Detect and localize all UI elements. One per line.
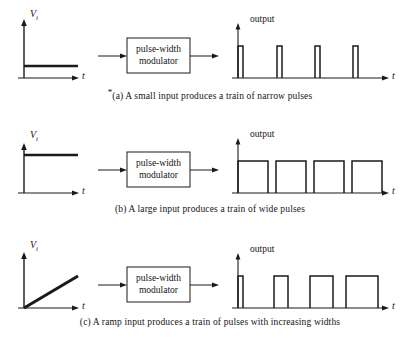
output-y-axis-arrow-b xyxy=(236,138,241,145)
output-label-c: output xyxy=(250,244,274,254)
output-y-axis-arrow-a xyxy=(236,23,241,30)
output-x-axis-arrow-b xyxy=(382,190,389,195)
output-x-axis-label-a: t xyxy=(392,70,395,81)
caption-text-a: (a) A small input produces a train of na… xyxy=(112,91,312,101)
output-label-a: output xyxy=(250,14,274,24)
output-x-axis-arrow-c xyxy=(382,305,389,310)
caption-c: (c) A ramp input produces a train of pul… xyxy=(0,313,420,327)
caption-a: *(a) A small input produces a train of n… xyxy=(0,87,420,101)
output-x-axis-label-b: t xyxy=(392,185,395,196)
pulse-train-b xyxy=(238,161,382,193)
caption-b: (b) A large input produces a train of wi… xyxy=(0,200,420,214)
output-y-axis-arrow-c xyxy=(236,253,241,260)
caption-text-b: (b) A large input produces a train of wi… xyxy=(115,204,305,214)
output-x-axis-arrow-a xyxy=(382,75,389,80)
pulse-train-c xyxy=(238,276,378,308)
caption-text-c: (c) A ramp input produces a train of pul… xyxy=(80,317,340,327)
pulse-train-a xyxy=(238,46,358,78)
output-label-b: output xyxy=(250,129,274,139)
output-x-axis-label-c: t xyxy=(392,300,395,311)
pwm-figure: Vi t pulse-width modulator xyxy=(0,0,420,343)
